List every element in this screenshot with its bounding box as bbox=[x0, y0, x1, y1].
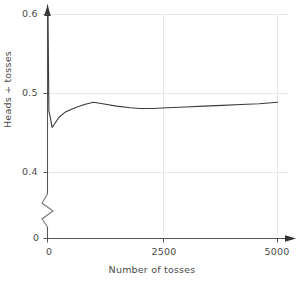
y-axis-tick-label-0.6: 0.6 bbox=[22, 8, 38, 19]
data-line-heads-proportion bbox=[48, 5, 278, 127]
y-axis-tick-label-0.5: 0.5 bbox=[22, 87, 38, 98]
y-axis-tick-label-0.4: 0.4 bbox=[22, 166, 38, 177]
x-axis-tick-label-2500: 2500 bbox=[152, 246, 177, 257]
y-axis-tick-label-0: 0 bbox=[33, 232, 39, 243]
x-axis bbox=[48, 235, 297, 242]
x-axis-title: Number of tosses bbox=[109, 264, 196, 275]
y-axis-title: Heads ÷ tosses bbox=[2, 51, 13, 128]
x-axis-arrowhead bbox=[285, 235, 296, 242]
axis-ticks bbox=[44, 15, 278, 243]
y-axis-break-zigzag bbox=[42, 194, 53, 227]
x-axis-tick-label-0: 0 bbox=[46, 246, 52, 257]
x-axis-tick-label-5000: 5000 bbox=[265, 246, 290, 257]
gridlines bbox=[47, 14, 288, 238]
line-chart: 0.6 0.5 0.4 0 0 2500 5000 Heads ÷ tosses… bbox=[0, 0, 304, 290]
